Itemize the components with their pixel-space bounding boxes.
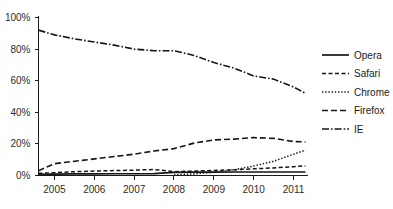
x-tick-label: 2010 <box>243 184 266 195</box>
x-tick-label: 2007 <box>123 184 146 195</box>
y-tick-label: 40% <box>10 107 30 118</box>
legend-label-safari: Safari <box>354 68 380 79</box>
legend-label-opera: Opera <box>354 50 382 61</box>
series-line-ie <box>39 30 306 93</box>
chart-legend: OperaSafariChromeFirefoxIE <box>322 50 390 135</box>
y-tick-label: 0% <box>16 170 31 181</box>
legend-label-ie: IE <box>354 124 364 135</box>
x-tick-label: 2009 <box>203 184 226 195</box>
y-axis-tick-marks <box>35 18 39 176</box>
y-tick-label: 20% <box>10 138 30 149</box>
y-tick-label: 80% <box>10 44 30 55</box>
legend-label-firefox: Firefox <box>354 105 385 116</box>
series-line-opera <box>39 172 306 174</box>
legend-label-chrome: Chrome <box>354 87 390 98</box>
x-tick-label: 2005 <box>43 184 66 195</box>
x-axis-tick-labels: 2005200620072008200920102011 <box>43 184 304 195</box>
x-tick-label: 2006 <box>83 184 106 195</box>
y-axis-tick-labels: 0%20%40%60%80%100% <box>5 12 31 181</box>
x-tick-label: 2008 <box>163 184 186 195</box>
y-tick-label: 100% <box>5 12 31 23</box>
y-tick-label: 60% <box>10 75 30 86</box>
chart-canvas: 0%20%40%60%80%100% 200520062007200820092… <box>0 0 393 209</box>
series-line-firefox <box>39 138 306 171</box>
series-lines <box>39 30 306 175</box>
browser-market-share-chart: 0%20%40%60%80%100% 200520062007200820092… <box>0 0 393 209</box>
x-axis-tick-marks <box>54 176 293 180</box>
x-tick-label: 2011 <box>283 184 305 195</box>
